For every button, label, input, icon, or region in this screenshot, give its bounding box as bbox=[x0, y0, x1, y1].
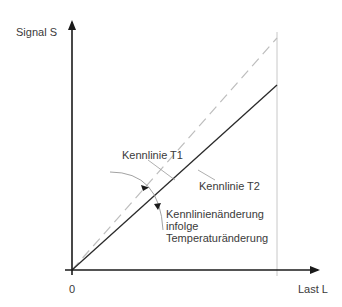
x-axis-label: Last L bbox=[298, 283, 328, 295]
characteristic-curve-diagram: Signal S Last L 0 Kennlinie T1 Kennlinie… bbox=[0, 0, 342, 307]
t1-leader-line bbox=[148, 160, 175, 180]
origin-label: 0 bbox=[69, 283, 75, 295]
annotation-line-3: Temperaturänderung bbox=[166, 232, 268, 244]
t2-leader-line bbox=[198, 170, 215, 180]
curve-t1-label: Kennlinie T1 bbox=[122, 149, 183, 161]
annotation-line-2: infolge bbox=[166, 220, 198, 232]
y-axis-label: Signal S bbox=[16, 26, 57, 38]
annotation-line-1: Kennlinienänderung bbox=[166, 208, 264, 220]
change-arc bbox=[110, 172, 163, 230]
curve-t2-label: Kennlinie T2 bbox=[199, 180, 260, 192]
